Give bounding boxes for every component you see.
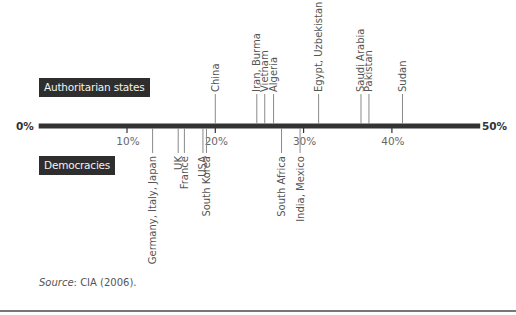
axis-tick-label: 30% [293,135,316,147]
bottom-divider [0,310,516,312]
axis-line [39,124,481,129]
axis-tick-label: 40% [381,135,404,147]
axis-min-label: 0% [16,120,34,132]
chart-area: 10%20%30%40%ChinaIran, BurmaVietnamAlger… [0,0,516,315]
source-prefix: Source [39,277,74,288]
legend-democracies: Democracies [39,156,115,175]
country-label: France [179,156,190,189]
country-label: South Africa [276,156,287,217]
country-label: South Korea [201,156,212,217]
country-label: India, Mexico [295,156,306,222]
country-label: Algeria [268,57,279,92]
country-label: China [210,63,221,92]
country-label: Sudan [397,61,408,93]
source-note: Source: CIA (2006). [39,277,137,288]
source-text: : CIA (2006). [74,277,137,288]
axis-max-label: 50% [482,120,507,132]
axis-tick-label: 10% [116,135,139,147]
axis-tick-label: 20% [205,135,228,147]
country-label: Germany, Italy, Japan [147,156,158,264]
country-label: Egypt, Uzbekistan [313,2,324,92]
country-label: Pakistan [363,50,374,92]
legend-authoritarian-states: Authoritarian states [39,78,150,97]
